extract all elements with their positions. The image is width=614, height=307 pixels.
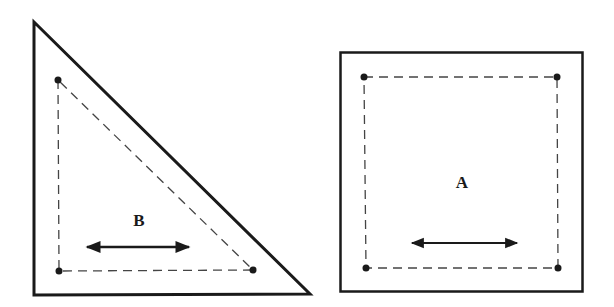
triangle-label: B xyxy=(133,211,144,230)
triangle-inner-dashed-outline xyxy=(58,80,253,271)
square-vertex-dot xyxy=(363,265,370,272)
diagram-canvas: B A xyxy=(0,0,614,307)
square-label: A xyxy=(456,173,469,192)
square-shape-a: A xyxy=(341,53,583,292)
square-outer-outline xyxy=(341,53,583,292)
triangle-shape-b: B xyxy=(34,22,310,295)
triangle-vertex-dot xyxy=(55,77,62,84)
triangle-vertex-dot xyxy=(250,267,257,274)
triangle-outer-outline xyxy=(34,22,310,295)
triangle-vertex-dot xyxy=(56,268,63,275)
square-vertex-dot xyxy=(555,265,562,272)
square-vertex-dot xyxy=(361,74,368,81)
square-vertex-dot xyxy=(554,74,561,81)
